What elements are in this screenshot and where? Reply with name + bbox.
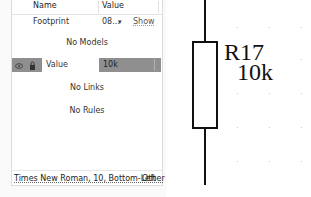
grid-dot xyxy=(301,93,302,94)
chevron-down-icon[interactable]: ▾ xyxy=(118,18,122,26)
name-column-header[interactable]: Name xyxy=(33,1,57,10)
grid-dot xyxy=(301,161,302,162)
row-icons xyxy=(12,58,42,72)
other-link[interactable]: Other xyxy=(142,174,165,183)
schematic-canvas[interactable]: R17 10k xyxy=(166,0,311,197)
font-setting-link[interactable]: Times New Roman, 10, Bottom-Left xyxy=(14,174,156,183)
parameter-value-field[interactable]: 10k xyxy=(99,58,161,72)
parameter-value[interactable]: 10k xyxy=(103,60,118,69)
eye-icon xyxy=(16,64,23,69)
footprint-row[interactable]: Footprint 08... ▾ Show xyxy=(12,15,162,29)
show-footprint-link[interactable]: Show xyxy=(133,17,155,26)
no-models-label: No Models xyxy=(12,38,162,47)
column-divider[interactable] xyxy=(98,1,99,13)
visibility-lock-icons xyxy=(12,59,42,73)
font-settings-row: Times New Roman, 10, Bottom-Left Other xyxy=(12,170,162,185)
footprint-name: Footprint xyxy=(33,17,69,26)
no-rules-label: No Rules xyxy=(12,106,162,115)
grid-dot xyxy=(269,27,270,28)
grid-dot xyxy=(237,93,238,94)
parameters-table-header: Name Value xyxy=(12,0,162,15)
grid-dot xyxy=(237,127,238,128)
grid-dot xyxy=(269,161,270,162)
parameter-row-value[interactable]: Value 10k xyxy=(12,58,162,72)
grid-dot xyxy=(237,161,238,162)
grid-dot xyxy=(301,59,302,60)
column-divider xyxy=(154,59,155,71)
comment-label[interactable]: 10k xyxy=(237,60,273,84)
grid-dot xyxy=(269,127,270,128)
resistor-pin-bottom[interactable] xyxy=(204,128,206,185)
resistor-body[interactable] xyxy=(192,41,218,129)
parameters-section: Name Value Footprint 08... ▾ Show No Mod… xyxy=(11,0,163,186)
properties-panel: Name Value Footprint 08... ▾ Show No Mod… xyxy=(0,0,166,197)
column-divider[interactable] xyxy=(158,1,159,13)
no-links-label: No Links xyxy=(12,83,162,92)
grid-dot xyxy=(301,27,302,28)
resistor-pin-top[interactable] xyxy=(204,0,206,42)
lock-icon xyxy=(30,62,35,70)
grid-dot xyxy=(237,27,238,28)
grid-dot xyxy=(269,93,270,94)
grid-dot xyxy=(301,127,302,128)
value-column-header[interactable]: Value xyxy=(102,1,124,10)
parameter-name: Value xyxy=(46,60,68,69)
